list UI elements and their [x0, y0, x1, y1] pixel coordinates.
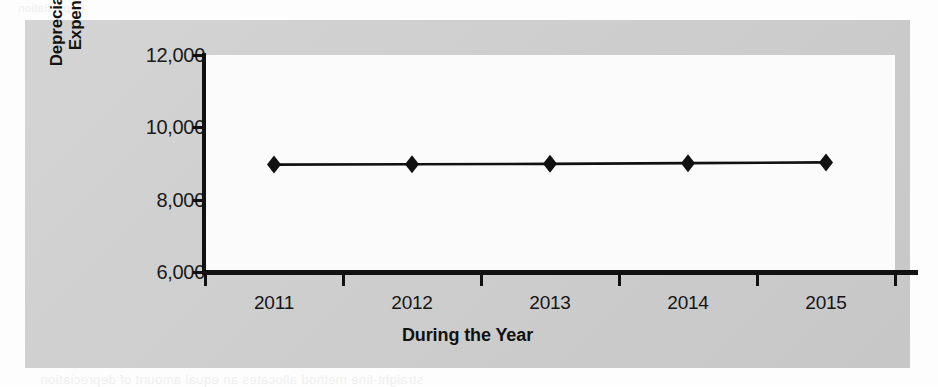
x-tick-mark: [756, 274, 759, 286]
y-axis-line: [202, 53, 206, 274]
y-axis-title-line-2: Expense: [66, 0, 85, 116]
x-tick-label: 2015: [781, 292, 871, 314]
x-axis-title: During the Year: [25, 325, 910, 346]
x-axis-line: [202, 270, 918, 275]
y-axis-title-line-1: Depreciation: [47, 0, 66, 116]
plot-area: [205, 55, 895, 272]
y-tick-label: 10,000: [113, 117, 205, 137]
x-tick-mark: [894, 274, 897, 286]
x-tick-mark: [618, 274, 621, 286]
x-tick-mark: [480, 274, 483, 286]
x-tick-label: 2012: [367, 292, 457, 314]
x-tick-label: 2014: [643, 292, 733, 314]
y-tick-mark: [193, 126, 206, 129]
y-tick-mark: [193, 54, 206, 57]
chart-figure: Depreciation Expense 12,00010,0008,0006,…: [25, 20, 910, 368]
x-tick-mark: [342, 274, 345, 286]
y-axis-title: Depreciation Expense: [47, 0, 83, 116]
x-tick-label: 2011: [229, 292, 319, 314]
y-tick-label: 8,000: [113, 190, 205, 210]
y-tick-label: 6,000: [113, 262, 205, 282]
x-tick-label: 2013: [505, 292, 595, 314]
bleed-through-text-bottom: straight-line method allocates an equal …: [40, 372, 423, 387]
y-tick-mark: [193, 199, 206, 202]
y-tick-label: 12,000: [113, 45, 205, 65]
x-tick-mark: [204, 274, 207, 286]
y-axis-tick-labels: 12,00010,0008,0006,000: [105, 20, 205, 368]
